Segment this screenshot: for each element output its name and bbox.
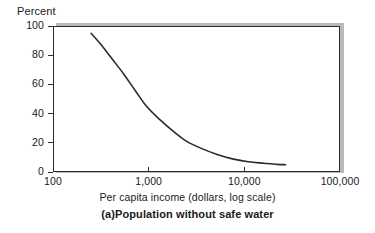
y-axis-tick: [48, 55, 53, 56]
x-axis-tick-label: 10,000: [204, 176, 284, 187]
y-axis-tick: [48, 84, 53, 85]
y-axis-tick-label: 80: [16, 49, 44, 60]
y-axis-tick-label: 40: [16, 108, 44, 119]
y-axis-title: Percent: [17, 5, 56, 18]
y-axis-tick-label: 60: [16, 78, 44, 89]
y-axis-tick: [48, 172, 53, 173]
figure-caption: (a)Population without safe water: [0, 207, 375, 221]
y-axis-tick-label: 20: [16, 137, 44, 148]
x-axis-title: Per capita income (dollars, log scale): [0, 191, 375, 204]
chart-figure: Percent 100806040200 1001,00010,000100,0…: [0, 0, 375, 233]
x-axis-tick: [244, 167, 245, 172]
y-axis-tick: [48, 26, 53, 27]
y-axis-tick: [48, 113, 53, 114]
plot-frame: [53, 26, 340, 172]
x-axis-tick-label: 100,000: [300, 176, 375, 187]
x-axis-tick-label: 1,000: [109, 176, 189, 187]
x-axis-tick: [148, 167, 149, 172]
x-axis-tick-label: 100: [13, 176, 93, 187]
y-axis-tick: [48, 142, 53, 143]
y-axis-tick-label: 100: [16, 20, 44, 31]
